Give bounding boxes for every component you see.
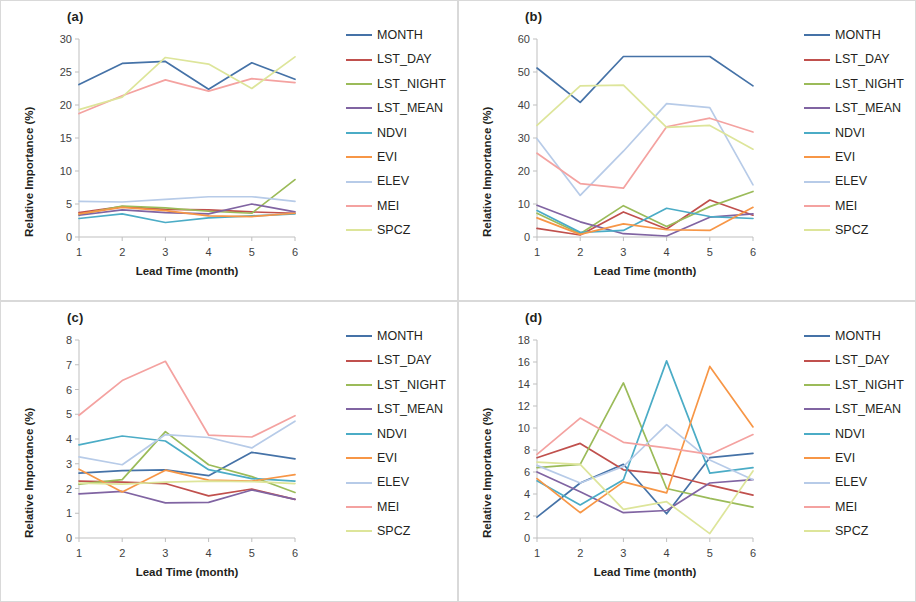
legend-item-lst_day[interactable]: LST_DAY xyxy=(346,348,446,372)
series-line-elev xyxy=(537,104,753,196)
y-tick-label: 4 xyxy=(524,488,530,500)
y-tick-label: 0 xyxy=(524,532,530,544)
legend-swatch-elev xyxy=(346,181,372,183)
legend-item-lst_night[interactable]: LST_NIGHT xyxy=(346,373,446,397)
legend-swatch-evi xyxy=(346,457,372,459)
legend-item-evi[interactable]: EVI xyxy=(804,145,904,169)
legend-swatch-lst_mean xyxy=(346,408,372,410)
y-tick-label: 50 xyxy=(518,66,530,78)
y-axis-title: Relative Importance (%) xyxy=(23,107,35,237)
legend-swatch-lst_mean xyxy=(804,107,830,109)
legend-item-spcz[interactable]: SPCZ xyxy=(804,218,904,242)
y-tick-label: 14 xyxy=(518,378,530,390)
legend-item-lst_mean[interactable]: LST_MEAN xyxy=(346,397,446,421)
legend-swatch-evi xyxy=(804,457,830,459)
legend-label: EVI xyxy=(835,452,855,465)
x-tick-label: 1 xyxy=(76,246,82,258)
x-tick-label: 3 xyxy=(620,547,626,559)
legend-item-lst_day[interactable]: LST_DAY xyxy=(346,47,446,71)
legend-item-elev[interactable]: ELEV xyxy=(346,169,446,193)
legend-item-mei[interactable]: MEI xyxy=(346,194,446,218)
y-tick-label: 12 xyxy=(518,400,530,412)
legend-item-ndvi[interactable]: NDVI xyxy=(804,121,904,145)
y-tick-label: 3 xyxy=(66,458,72,470)
series-line-lst_mean xyxy=(79,490,295,503)
legend-item-month[interactable]: MONTH xyxy=(804,23,904,47)
legend-swatch-spcz xyxy=(804,530,830,532)
panel-b: 0102030405060123456MONTHLST_DAYLST_NIGHT… xyxy=(458,0,916,301)
legend-item-ndvi[interactable]: NDVI xyxy=(346,121,446,145)
legend-label: NDVI xyxy=(377,428,407,441)
legend-item-elev[interactable]: ELEV xyxy=(804,169,904,193)
legend-item-month[interactable]: MONTH xyxy=(346,324,446,348)
series-line-mei xyxy=(79,79,295,114)
legend-item-spcz[interactable]: SPCZ xyxy=(804,519,904,543)
legend-label: MONTH xyxy=(835,330,881,343)
x-tick-label: 6 xyxy=(292,246,298,258)
legend-swatch-elev xyxy=(804,482,830,484)
x-tick-label: 6 xyxy=(750,246,756,258)
x-axis-title: Lead Time (month) xyxy=(537,566,753,578)
y-axis-title: Relative Importance (%) xyxy=(23,408,35,538)
x-tick-label: 1 xyxy=(534,246,540,258)
legend-item-month[interactable]: MONTH xyxy=(346,23,446,47)
legend-label: ELEV xyxy=(835,175,867,188)
legend-item-month[interactable]: MONTH xyxy=(804,324,904,348)
y-tick-label: 2 xyxy=(524,510,530,522)
legend-label: MONTH xyxy=(377,29,423,42)
legend-item-evi[interactable]: EVI xyxy=(346,446,446,470)
legend-item-lst_mean[interactable]: LST_MEAN xyxy=(804,397,904,421)
legend-item-mei[interactable]: MEI xyxy=(804,495,904,519)
x-axis-title: Lead Time (month) xyxy=(79,566,295,578)
legend-swatch-lst_day xyxy=(346,59,372,61)
x-tick-label: 5 xyxy=(707,246,713,258)
legend-item-spcz[interactable]: SPCZ xyxy=(346,218,446,242)
legend-item-lst_night[interactable]: LST_NIGHT xyxy=(804,72,904,96)
legend-swatch-mei xyxy=(346,205,372,207)
legend-swatch-lst_night xyxy=(346,83,372,85)
x-tick-label: 6 xyxy=(750,547,756,559)
legend-label: EVI xyxy=(835,151,855,164)
y-axis-title: Relative Importance (%) xyxy=(481,408,493,538)
legend-item-lst_night[interactable]: LST_NIGHT xyxy=(346,72,446,96)
legend-swatch-ndvi xyxy=(346,433,372,435)
series-line-mei xyxy=(79,361,295,437)
legend-item-ndvi[interactable]: NDVI xyxy=(804,422,904,446)
y-tick-label: 10 xyxy=(518,422,530,434)
legend-label: NDVI xyxy=(377,127,407,140)
y-tick-label: 4 xyxy=(66,433,72,445)
legend-item-lst_night[interactable]: LST_NIGHT xyxy=(804,373,904,397)
legend-item-lst_day[interactable]: LST_DAY xyxy=(804,47,904,71)
legend-item-spcz[interactable]: SPCZ xyxy=(346,519,446,543)
legend-swatch-lst_night xyxy=(346,384,372,386)
legend-item-lst_mean[interactable]: LST_MEAN xyxy=(346,96,446,120)
legend-item-lst_day[interactable]: LST_DAY xyxy=(804,348,904,372)
x-tick-label: 2 xyxy=(119,246,125,258)
y-axis-title: Relative Importance (%) xyxy=(481,107,493,237)
legend-item-evi[interactable]: EVI xyxy=(804,446,904,470)
y-tick-label: 2 xyxy=(66,483,72,495)
legend-label: ELEV xyxy=(377,175,409,188)
legend-item-evi[interactable]: EVI xyxy=(346,145,446,169)
y-tick-label: 6 xyxy=(66,384,72,396)
legend-swatch-mei xyxy=(346,506,372,508)
series-line-elev xyxy=(79,197,295,202)
y-tick-label: 8 xyxy=(66,334,72,346)
series-line-month xyxy=(537,453,753,517)
legend-item-lst_mean[interactable]: LST_MEAN xyxy=(804,96,904,120)
legend-swatch-lst_day xyxy=(804,360,830,362)
figure-panel-grid: 051015202530123456MONTHLST_DAYLST_NIGHTL… xyxy=(0,0,916,602)
legend-item-mei[interactable]: MEI xyxy=(804,194,904,218)
chart-legend: MONTHLST_DAYLST_NIGHTLST_MEANNDVIEVIELEV… xyxy=(346,23,446,243)
x-tick-label: 4 xyxy=(206,547,212,559)
legend-item-ndvi[interactable]: NDVI xyxy=(346,422,446,446)
legend-item-elev[interactable]: ELEV xyxy=(346,470,446,494)
legend-label: LST_NIGHT xyxy=(835,379,904,392)
x-tick-label: 3 xyxy=(620,246,626,258)
chart-legend: MONTHLST_DAYLST_NIGHTLST_MEANNDVIEVIELEV… xyxy=(346,324,446,544)
x-tick-label: 4 xyxy=(206,246,212,258)
legend-item-elev[interactable]: ELEV xyxy=(804,470,904,494)
legend-label: LST_DAY xyxy=(835,53,890,66)
legend-item-mei[interactable]: MEI xyxy=(346,495,446,519)
legend-label: ELEV xyxy=(377,476,409,489)
